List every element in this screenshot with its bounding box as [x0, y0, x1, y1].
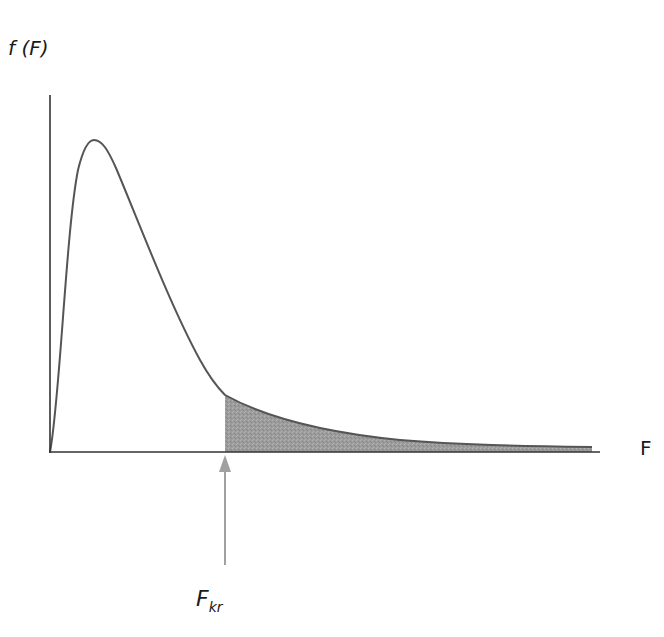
y-axis-label-text: f (F)	[8, 36, 49, 60]
rejection-region	[225, 395, 592, 452]
density-curve	[50, 140, 592, 452]
y-axis-label: f (F)	[8, 36, 49, 60]
critical-value-main: F	[196, 586, 209, 611]
x-axis-label: F	[640, 436, 652, 460]
critical-value-subscript: kr	[209, 599, 223, 615]
f-distribution-chart	[0, 0, 664, 637]
critical-value-label: Fkr	[196, 586, 223, 615]
critical-arrow-head	[219, 455, 231, 472]
